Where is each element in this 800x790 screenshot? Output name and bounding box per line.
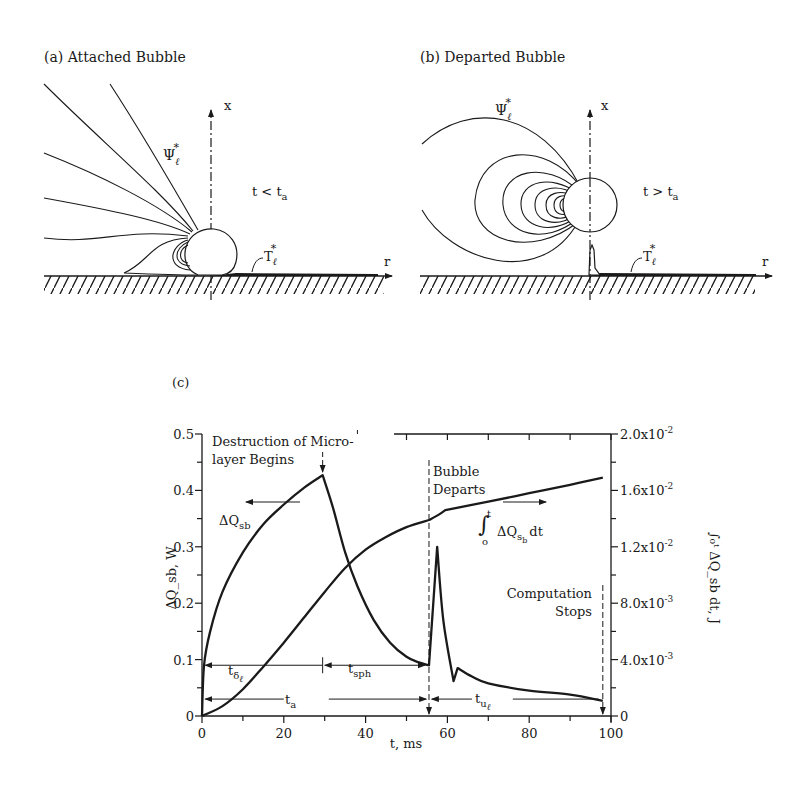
panel-a-temp-label: Tℓ* [264, 242, 277, 267]
y-tick-label: 0 [186, 709, 194, 724]
y-right-tick-label: 0 [620, 709, 628, 724]
panel-b-streamlines [422, 118, 580, 262]
tick-labels: 0 20 40 60 80 100 0 0.1 0.2 0.3 0.4 0.5 … [173, 425, 673, 741]
panel-a-r-label: r [384, 254, 391, 269]
annotation-destruction-line2: layer Begins [212, 452, 294, 467]
panel-a-title: (a) Attached Bubble [44, 49, 186, 65]
panel-b: (b) Departed Bubble r x Ψℓ* t > ta Tℓ* [415, 49, 772, 304]
y-tick-label: 0.5 [173, 427, 194, 442]
panel-a-thermal-layer [211, 273, 378, 276]
x-tick-label: 60 [439, 726, 456, 741]
annotation-stops-line2: Stops [555, 604, 592, 619]
panel-b-r-label: r [762, 254, 769, 269]
panel-b-x-label: x [601, 98, 609, 113]
panel-a-condition: t < ta [252, 184, 288, 202]
y-right-tick-label: 1.6x10-2 [620, 481, 673, 498]
x-tick-label: 40 [357, 726, 374, 741]
panel-b-psi-label: Ψℓ* [495, 96, 511, 122]
y-tick-label: 0.4 [173, 483, 194, 498]
t-a-label: ta [285, 692, 296, 710]
panel-b-thermal-plume [589, 245, 600, 275]
panel-b-temp-label: Tℓ* [643, 242, 656, 267]
x-tick-label: 0 [198, 726, 206, 741]
axis-ticks [195, 434, 618, 723]
panel-b-wall-hatch [420, 276, 755, 294]
y-right-tick-label: 8.0x10-3 [620, 594, 674, 611]
integral-upper-limit: t [487, 508, 491, 519]
y-right-tick-label: 1.2x10-2 [620, 538, 673, 555]
annotation-stops-line1: Computation [507, 586, 593, 601]
t-u-label: tuℓ [475, 691, 491, 712]
panel-b-condition: t > ta [643, 184, 679, 202]
dq-series-label: ΔQsb [219, 513, 251, 531]
figure: (a) Attached Bubble r x Ψℓ* t < ta Tℓ* [0, 0, 800, 790]
panel-a: (a) Attached Bubble r x Ψℓ* t < ta Tℓ* [40, 49, 392, 304]
integral-lower-limit: o [482, 536, 488, 547]
x-axis-title: t, ms [390, 736, 423, 751]
y-right-tick-label: 4.0x10-3 [620, 651, 674, 668]
t-sph-label: tsph [348, 661, 372, 679]
annotation-departs-line1: Bubble [433, 464, 480, 479]
panel-c-title: (c) [172, 375, 189, 390]
x-tick-label: 20 [276, 726, 293, 741]
panel-a-wall-hatch [44, 276, 384, 294]
left-y-axis-title: ΔQ_sb, W [164, 546, 179, 610]
right-y-axis-title: ∫₀ᵗ ΔQ_sb dt, J [707, 532, 722, 624]
annotation-departs-line2: Departs [433, 482, 485, 497]
panel-b-thermal-layer [591, 273, 756, 276]
x-tick-label: 100 [599, 726, 624, 741]
y-right-tick-label: 2.0x10-2 [620, 425, 673, 442]
y-tick-label: 0.1 [173, 653, 194, 668]
integral-series-label: ΔQsbdt [497, 524, 544, 545]
x-tick-label: 80 [521, 726, 538, 741]
panel-b-title: (b) Departed Bubble [420, 49, 565, 65]
t-delta-label: tδℓ [228, 663, 243, 684]
panel-a-bubble [185, 229, 237, 275]
panel-c-chart: (c) 0 20 40 60 80 100 0 0.1 0.2 0.3 0.4 … [164, 375, 722, 751]
annotation-destruction-line1: Destruction of Micro- [212, 434, 354, 449]
panel-a-streamlines [44, 84, 198, 275]
panel-a-psi-label: Ψℓ* [163, 141, 179, 167]
panel-a-x-label: x [224, 98, 232, 113]
